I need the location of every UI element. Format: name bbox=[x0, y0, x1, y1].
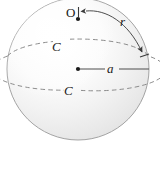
label-arc-radius-r: r bbox=[120, 15, 125, 28]
label-circle-lower-C: C bbox=[64, 84, 73, 97]
label-circle-upper-C: C bbox=[52, 40, 61, 53]
sphere-diagram-figure: O r a C C bbox=[0, 0, 160, 179]
label-center-radius-a: a bbox=[107, 62, 114, 75]
center-point-dot bbox=[76, 67, 80, 71]
sphere-diagram-canvas bbox=[0, 0, 160, 179]
label-pole-point-O: O bbox=[66, 6, 75, 19]
